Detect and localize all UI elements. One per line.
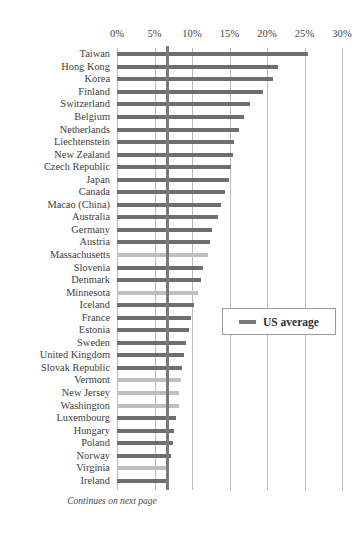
bar-row-label: Vermont [74,375,110,386]
bar-row: Liechtenstein [0,136,356,149]
bar [117,341,186,345]
bar-row-label: Macao (China) [47,199,110,210]
bar-row-label: Ireland [81,475,110,486]
bar [117,454,171,458]
bar-row: New Zealand [0,148,356,161]
bar-row: Czech Republic [0,161,356,174]
bar-row: Canada [0,186,356,199]
bar-row-label: Belgium [74,111,110,122]
bar-row-label: Switzerland [60,99,110,110]
bar-row-label: Germany [71,224,110,235]
bar-row-label: Slovak Republic [41,362,110,373]
bar [117,240,210,244]
bar [117,266,203,270]
bar [117,128,239,132]
bar [117,466,169,470]
bar-row: Netherlands [0,123,356,136]
bar-row-label: Finland [78,86,110,97]
bar-row-label: Massachusetts [50,249,110,260]
bar-row-label: Canada [79,187,110,198]
bar [117,278,201,282]
bar-row: Minnesota [0,286,356,299]
bar-row: Virginia [0,462,356,475]
legend-label-us-average: US average [263,316,319,328]
x-tick-label: 15% [220,28,240,39]
bar-row: United Kingdom [0,349,356,362]
bar-row-label: Australia [72,212,110,223]
bar [117,353,184,357]
bar [117,178,229,182]
bar-row-label: Sweden [77,337,110,348]
bar [117,153,233,157]
legend-swatch-us-average [239,320,256,324]
bar-row: Hong Kong [0,61,356,74]
bar-row-label: Hong Kong [61,61,110,72]
bar-row-label: Minnesota [66,287,110,298]
bar [117,115,244,119]
bar-row: Massachusetts [0,249,356,262]
bar-row-label: France [82,312,110,323]
bar-row-label: Poland [81,437,110,448]
bar-row-label: Korea [85,74,110,85]
bar [117,253,208,257]
bar-row: Switzerland [0,98,356,111]
x-tick-label: 5% [147,28,161,39]
bar-row-label: Luxembourg [57,412,111,423]
bar [117,90,263,94]
bar-row-label: Washington [61,400,110,411]
bar-row: Austria [0,236,356,249]
bar-row: Korea [0,73,356,86]
bar-row-label: New Jersey [62,387,110,398]
bar [117,102,250,106]
bar-row: Australia [0,211,356,224]
bar-row: Taiwan [0,48,356,61]
bar [117,65,278,69]
bar [117,228,212,232]
bar [117,391,179,395]
bar [117,316,191,320]
bar-row-label: Netherlands [60,124,110,135]
bar-row-label: Slovenia [74,262,110,273]
x-tick-label: 25% [295,28,315,39]
bar-row: Vermont [0,374,356,387]
bar-rows: TaiwanHong KongKoreaFinlandSwitzerlandBe… [0,48,356,487]
x-axis-tick-labels: 0%5%10%15%20%25%30% [0,28,356,44]
bar [117,140,234,144]
bar-row-label: Czech Republic [44,161,110,172]
bar [117,77,273,81]
bar [117,441,173,445]
bar-row: Denmark [0,274,356,287]
bar-row-label: Hungary [74,425,110,436]
footnote: Continues on next page [0,496,224,506]
bar [117,190,225,194]
bar-row-label: Denmark [71,274,110,285]
x-tick-label: 10% [182,28,202,39]
legend: US average [222,308,336,335]
chart-container: 0%5%10%15%20%25%30% TaiwanHong KongKorea… [0,0,356,533]
bar-row: Japan [0,173,356,186]
bar-row: Luxembourg [0,412,356,425]
bar-row-label: Taiwan [80,49,110,60]
bar-row: Poland [0,437,356,450]
bar [117,291,198,295]
bar [117,52,308,56]
bar-row-label: Iceland [79,299,110,310]
bar [117,404,179,408]
bar-row: Finland [0,86,356,99]
bar-row: Norway [0,450,356,463]
bar-row-label: Austria [79,237,110,248]
bar [117,165,231,169]
bar [117,366,182,370]
bar [117,479,167,483]
x-tick-label: 30% [332,28,352,39]
bar-row-label: New Zealand [54,149,110,160]
bar [117,303,194,307]
bar-row: Germany [0,224,356,237]
bar-row-label: Norway [77,450,110,461]
x-tick-label: 20% [257,28,277,39]
bar-row: Hungary [0,424,356,437]
x-tick-label: 0% [110,28,124,39]
bar-row: Slovak Republic [0,362,356,375]
bar-row-label: Virginia [76,463,110,474]
bar-row: Sweden [0,337,356,350]
